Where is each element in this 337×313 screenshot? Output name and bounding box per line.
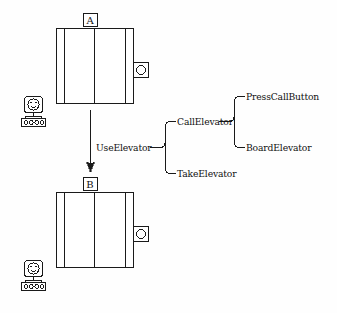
elevator-car-bottom <box>57 193 134 268</box>
robot-bottom <box>22 261 46 291</box>
robot-top <box>22 97 46 127</box>
tree-node-presscallbutton: PressCallButton <box>246 91 319 102</box>
downward-arrow <box>87 110 95 172</box>
diagram-canvas: A B UseElevator CallElevator TakeElevato… <box>0 0 337 313</box>
call-button-top <box>134 63 149 78</box>
tree-edge-root <box>150 143 165 148</box>
tree-bracket-level2 <box>235 97 246 148</box>
tree-bracket-level1 <box>166 122 177 174</box>
tree-node-takeelevator: TakeElevator <box>177 168 236 179</box>
tree-node-useelevator: UseElevator <box>96 142 152 153</box>
tree-node-boardelevator: BoardElevator <box>246 142 311 153</box>
elevator-car-top <box>57 29 134 104</box>
call-button-bottom <box>134 227 149 242</box>
diagram-vector-layer <box>0 0 337 313</box>
floor-label-a: A <box>83 14 97 27</box>
floor-label-b: B <box>83 178 97 191</box>
tree-node-callelevator: CallElevator <box>177 116 233 127</box>
